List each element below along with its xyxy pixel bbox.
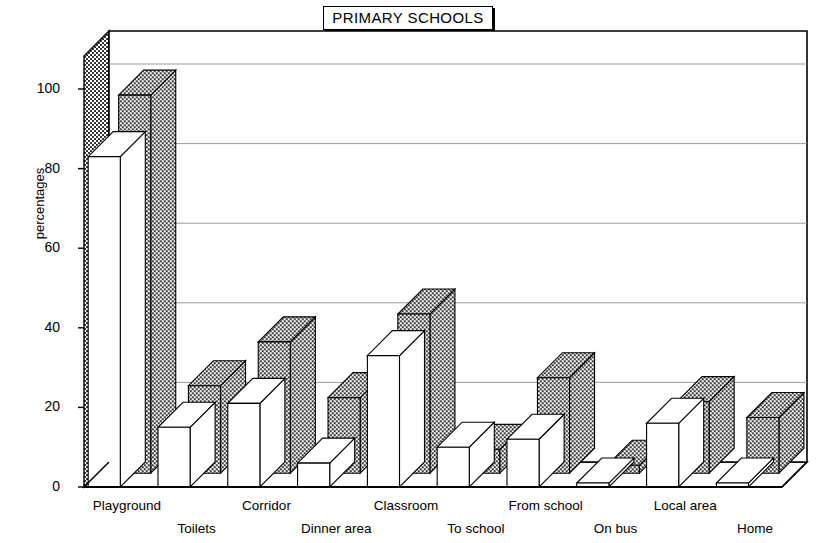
x-tick-label-corridor: Corridor bbox=[242, 498, 291, 513]
x-tick-label-from-school: From school bbox=[509, 498, 583, 513]
x-tick-label-home: Home bbox=[737, 521, 773, 536]
x-tick-label-on-bus: On bus bbox=[594, 521, 638, 536]
x-tick-label-toilets: Toilets bbox=[178, 521, 216, 536]
x-axis-labels: PlaygroundToiletsCorridorDinner areaClas… bbox=[0, 0, 816, 543]
x-tick-label-playground: Playground bbox=[93, 498, 161, 513]
x-tick-label-dinner-area: Dinner area bbox=[301, 521, 372, 536]
chart-page: PRIMARY SCHOOLS percentages 020406080100… bbox=[0, 0, 816, 543]
x-tick-label-local-area: Local area bbox=[654, 498, 717, 513]
x-tick-label-classroom: Classroom bbox=[374, 498, 439, 513]
x-tick-label-to-school: To school bbox=[447, 521, 504, 536]
